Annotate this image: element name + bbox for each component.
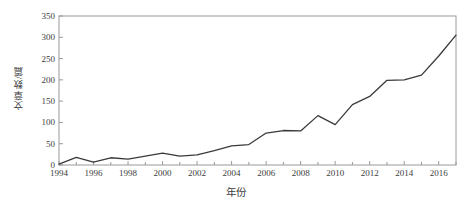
chart-figure: 文章数/篇 050100150200250300350 199419961998… — [0, 0, 472, 210]
x-axis-title: 年份 — [0, 184, 472, 199]
plot-area — [0, 0, 472, 210]
plot-background — [59, 16, 456, 165]
